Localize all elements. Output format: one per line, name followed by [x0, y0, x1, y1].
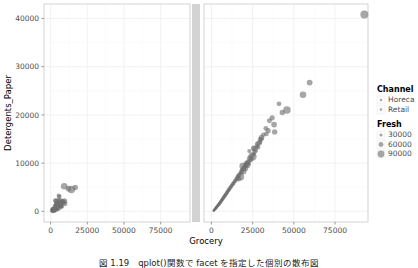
data-point [251, 146, 256, 151]
y-tick-label: 0 [34, 207, 39, 216]
y-axis-title: Detergents_Paper [3, 75, 13, 151]
data-point [307, 80, 313, 86]
x-tick-label: 0 [209, 226, 214, 235]
legend-title-channel: Channel [377, 85, 414, 94]
legend-fresh: Fresh300006000090000 [377, 120, 412, 158]
data-point [73, 185, 78, 190]
data-point [58, 202, 63, 207]
legend-label-channel: Retail [388, 105, 409, 114]
data-point [239, 163, 245, 169]
data-point [61, 183, 68, 190]
scatter-plot-svg: 0100002000030000400000250005000075000025… [0, 0, 418, 250]
x-tick-label: 50000 [282, 226, 306, 235]
legend-label-fresh: 30000 [388, 130, 412, 139]
chart-plot-area: 0100002000030000400000250005000075000025… [0, 0, 418, 250]
y-tick-label: 20000 [15, 111, 39, 120]
data-point [248, 152, 256, 160]
y-tick-label: 30000 [15, 62, 39, 71]
x-tick-label: 50000 [112, 226, 136, 235]
legend-label-channel: Horeca [388, 95, 414, 104]
y-axis: 010000200003000040000 [15, 14, 44, 216]
y-tick-label: 40000 [15, 14, 39, 23]
x-tick-label: 0 [48, 226, 53, 235]
x-tick-label: 75000 [149, 226, 173, 235]
figure-container: 0100002000030000400000250005000075000025… [0, 0, 418, 268]
data-point [258, 137, 262, 141]
data-point [271, 122, 277, 128]
x-axis-panel-0: 0250005000075000 [48, 222, 173, 235]
legend-key-point [380, 99, 382, 101]
x-axis-panel-1: 0250005000075000 [209, 222, 347, 235]
data-point [51, 209, 54, 212]
data-point [235, 176, 241, 182]
x-tick-label: 25000 [241, 226, 265, 235]
legend-key-point [380, 134, 383, 137]
legend-key-point [379, 142, 384, 147]
figure-caption: 図 1.19 qplot()関数で facet を指定した個別の散布図 [0, 256, 418, 268]
data-point [277, 101, 282, 106]
legend-label-fresh: 60000 [388, 140, 412, 149]
legend-label-fresh: 90000 [388, 149, 412, 158]
data-point [280, 110, 285, 115]
x-tick-label: 75000 [323, 226, 347, 235]
data-point [263, 126, 268, 131]
facet-divider [192, 4, 200, 222]
data-point [360, 10, 368, 18]
x-tick-label: 25000 [75, 226, 99, 235]
data-point [272, 129, 277, 134]
data-point [213, 210, 215, 212]
data-point [300, 92, 307, 99]
data-point [267, 118, 272, 123]
legend-key-point [380, 108, 382, 110]
x-axis-title: Grocery [189, 236, 223, 246]
data-point [247, 149, 251, 153]
data-point [261, 132, 266, 137]
legend-channel: ChannelHorecaRetail [377, 85, 414, 114]
legend-title-fresh: Fresh [377, 120, 402, 129]
legend-key-point [378, 151, 385, 158]
y-tick-label: 10000 [15, 159, 39, 168]
